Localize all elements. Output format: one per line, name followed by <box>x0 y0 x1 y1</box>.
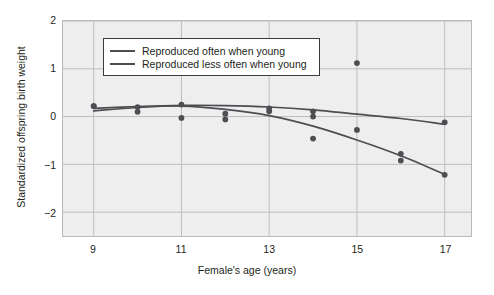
legend-line-swatch-series-1 <box>110 50 135 52</box>
data-point-series-2 <box>179 115 185 121</box>
x-tick-label: 17 <box>440 243 452 255</box>
data-point-series-2 <box>354 127 360 133</box>
x-tick-label: 13 <box>263 243 275 255</box>
legend-label-series-1: Reproduced often when young <box>142 45 285 57</box>
y-axis-tick-labels: 210−1−2 <box>0 0 56 295</box>
x-tick-label: 11 <box>176 243 187 255</box>
data-point-series-2 <box>442 172 448 178</box>
data-point-series-2 <box>135 109 141 115</box>
legend-line-swatch-series-2 <box>110 63 135 65</box>
y-tick-label: 2 <box>10 14 56 26</box>
x-tick-label: 15 <box>352 243 364 255</box>
chart-legend: Reproduced often when young Reproduced l… <box>103 38 320 76</box>
data-point-series-2 <box>398 158 404 164</box>
data-point-series-2 <box>91 103 97 109</box>
data-point-series-1 <box>179 102 185 108</box>
y-axis-title: Standardized offspring birth weight <box>15 27 27 227</box>
legend-item-reproduced-often: Reproduced often when young <box>110 44 307 57</box>
data-point-series-1 <box>398 151 404 157</box>
data-point-series-1 <box>310 108 316 114</box>
fit-curve-series-2 <box>94 106 445 174</box>
legend-label-series-2: Reproduced less often when young <box>142 58 307 70</box>
chart-figure: 210−1−2 Female's age (years) Standardize… <box>0 0 494 295</box>
data-point-series-2 <box>222 117 228 123</box>
data-point-series-2 <box>310 114 316 120</box>
data-point-series-2 <box>266 108 272 114</box>
data-point-series-1 <box>354 60 360 66</box>
data-point-series-2 <box>222 111 228 117</box>
data-point-series-2 <box>310 136 316 142</box>
data-point-series-1 <box>442 119 448 125</box>
x-axis-title: Female's age (years) <box>0 264 494 276</box>
x-tick-label: 9 <box>90 243 96 255</box>
legend-item-reproduced-less-often: Reproduced less often when young <box>110 57 307 70</box>
